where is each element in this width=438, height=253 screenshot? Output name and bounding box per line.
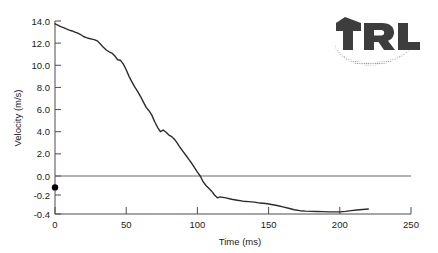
y-tick-label-12: 12.0: [32, 38, 51, 49]
x-tick-label-150: 150: [261, 219, 277, 230]
y-axis-title: Velocity (m/s): [12, 89, 23, 146]
y-tick-label-14: 14.0: [32, 16, 51, 27]
origin-marker-dot: [52, 184, 58, 190]
y-tick-label-10: 10.0: [32, 60, 51, 71]
y-tick-label-8: 8.0: [37, 82, 50, 93]
y-tick-label-6: 6.0: [37, 104, 50, 115]
trl-logo: [328, 14, 424, 66]
y-tick-label-neg02: -0.2: [34, 190, 50, 201]
x-tick-label-50: 50: [121, 219, 132, 230]
y-tick-label-4: 4.0: [37, 126, 50, 137]
x-tick-label-250: 250: [403, 219, 419, 230]
logo-wordmark: [336, 17, 420, 50]
x-tick-label-0: 0: [52, 219, 57, 230]
y-tick-label-2: 2.0: [37, 148, 50, 159]
y-tick-label-neg04: -0.4: [34, 209, 50, 220]
x-tick-label-200: 200: [332, 219, 348, 230]
y-tick-label-0: 0.0: [37, 171, 50, 182]
velocity-curve: [55, 24, 368, 212]
x-axis-title: Time (ms): [219, 236, 261, 247]
chart-figure: 14.0 12.0 10.0 8.0 6.0 4.0 2.0 0.0 -0.2 …: [0, 0, 438, 253]
x-tick-label-100: 100: [189, 219, 205, 230]
